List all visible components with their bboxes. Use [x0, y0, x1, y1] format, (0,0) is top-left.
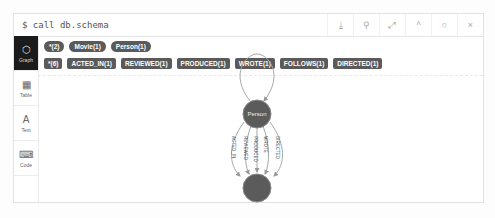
- node-person-label: Person: [247, 111, 266, 117]
- edge-label-acted-in: ACTED_IN: [231, 136, 236, 158]
- result-frame: $ call db.schema ⤓ ⚲ ⤢ ^ ○ × ⬡ Graph ▦ T…: [13, 13, 484, 203]
- edge-label-produced: PRODUCED: [253, 136, 258, 163]
- edge-label-wrote: WROTE: [263, 136, 268, 153]
- graph-canvas[interactable]: ACTED_IN REVIEWED PRODUCED WROTE DIRECTE…: [14, 14, 485, 204]
- edge-label-directed: DIRECTED: [275, 136, 280, 160]
- node-movie: [243, 174, 271, 202]
- edge-follows-loop: [240, 54, 274, 101]
- edge-label-reviewed: REVIEWED: [243, 136, 248, 161]
